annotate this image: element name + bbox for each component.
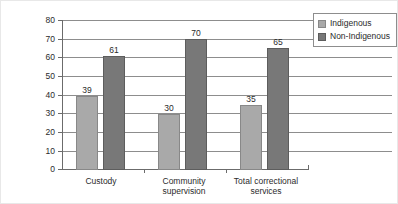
- x-category-label-community-supervision-line-2: supervision: [140, 186, 228, 196]
- legend-swatch-non-indigenous-icon: [318, 33, 326, 41]
- y-tick-mark-10: [58, 151, 62, 152]
- x-category-label-community-supervision: Community supervision: [140, 176, 228, 196]
- legend-item-indigenous[interactable]: Indigenous: [318, 17, 393, 30]
- x-category-label-community-supervision-line-1: Community: [140, 176, 228, 186]
- bar-value-custody-indigenous: 39: [73, 86, 101, 95]
- y-tick-label-40: 40: [15, 91, 55, 100]
- y-axis-line: [62, 20, 63, 170]
- y-tick-mark-30: [58, 113, 62, 114]
- bar-community-supervision-indigenous: [158, 114, 180, 170]
- x-category-label-custody-line-1: Custody: [56, 176, 146, 186]
- bar-total-correctional-services-non-indigenous: [267, 48, 289, 170]
- y-tick-label-0: 0: [15, 165, 55, 174]
- bar-community-supervision-non-indigenous: [185, 39, 207, 170]
- chart-legend: Indigenous Non-Indigenous: [313, 13, 397, 47]
- bar-value-total-correctional-services-non-indigenous: 65: [264, 38, 292, 47]
- legend-swatch-indigenous-icon: [318, 20, 326, 28]
- bar-custody-non-indigenous: [103, 56, 125, 170]
- bar-value-community-supervision-indigenous: 30: [155, 104, 183, 113]
- bar-value-custody-non-indigenous: 61: [100, 46, 128, 55]
- x-axis-end-tick: [308, 165, 309, 170]
- y-tick-label-10: 10: [15, 147, 55, 156]
- x-category-label-total-correctional-services-line-1: Total correctional: [220, 176, 312, 186]
- bar-custody-indigenous: [76, 96, 98, 170]
- legend-label-indigenous: Indigenous: [330, 19, 372, 28]
- y-tick-mark-80: [58, 20, 62, 21]
- y-tick-mark-20: [58, 132, 62, 133]
- y-tick-mark-60: [58, 57, 62, 58]
- bar-value-total-correctional-services-indigenous: 35: [237, 95, 265, 104]
- y-tick-label-30: 30: [15, 109, 55, 118]
- bar-total-correctional-services-indigenous: [240, 105, 262, 170]
- y-tick-label-50: 50: [15, 72, 55, 81]
- bar-value-community-supervision-non-indigenous: 70: [182, 29, 210, 38]
- legend-item-non-indigenous[interactable]: Non-Indigenous: [318, 30, 393, 43]
- x-category-label-total-correctional-services: Total correctional services: [220, 176, 312, 196]
- x-category-label-custody: Custody: [56, 176, 146, 186]
- x-axis-separator-1: [144, 169, 145, 173]
- x-category-label-total-correctional-services-line-2: services: [220, 186, 312, 196]
- legend-label-non-indigenous: Non-Indigenous: [330, 32, 390, 41]
- y-tick-label-20: 20: [15, 128, 55, 137]
- y-tick-mark-40: [58, 95, 62, 96]
- y-tick-label-60: 60: [15, 53, 55, 62]
- x-axis-separator-2: [226, 169, 227, 173]
- bar-chart-figure: 80 70 60 50 40 30 20 10 0 39 61 Custody …: [0, 0, 398, 204]
- y-tick-mark-50: [58, 76, 62, 77]
- y-tick-mark-70: [58, 39, 62, 40]
- y-tick-label-80: 80: [15, 16, 55, 25]
- y-tick-label-70: 70: [15, 35, 55, 44]
